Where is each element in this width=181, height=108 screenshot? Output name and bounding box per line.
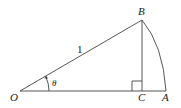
label-O: O: [10, 91, 18, 103]
angle-label-theta: θ: [52, 78, 57, 88]
label-A: A: [161, 91, 169, 103]
angle-arc: [46, 77, 49, 91]
arc-BA: [142, 20, 166, 91]
label-B: B: [138, 5, 145, 17]
right-angle-marker: [132, 81, 142, 91]
hypotenuse-label: 1: [77, 43, 83, 55]
unit-circle-triangle-diagram: O C A B 1 θ: [0, 0, 181, 108]
label-C: C: [138, 91, 146, 103]
segment-OB: [20, 20, 142, 91]
